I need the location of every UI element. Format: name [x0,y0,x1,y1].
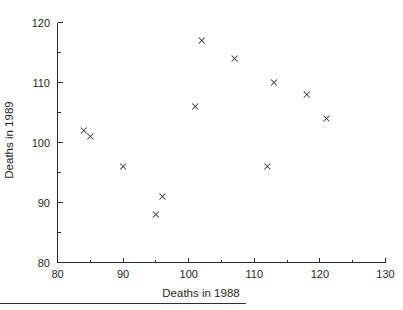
data-point [199,38,205,44]
data-point [120,164,126,170]
x-tick-label: 100 [180,269,198,280]
y-axis-title: Deaths in 1989 [4,101,16,178]
plot-canvas [0,0,403,310]
data-point [87,134,93,140]
y-tick-label: 100 [22,137,50,148]
x-tick-label: 130 [376,269,394,280]
data-point [304,92,310,98]
y-tick-label: 80 [22,257,50,268]
data-point [81,128,87,134]
x-tick-label: 90 [117,269,129,280]
y-tick-label: 110 [22,77,50,88]
data-markers [81,38,330,218]
data-point [192,104,198,110]
data-point [159,194,165,200]
axis-ticks [58,23,386,263]
x-tick-label: 120 [311,269,329,280]
bottom-divider [0,303,246,304]
y-tick-label: 120 [22,17,50,28]
data-point [264,164,270,170]
scatter-plot-figure: 80901001101201308090100110120 Deaths in … [0,0,403,310]
x-tick-label: 80 [51,269,63,280]
data-point [232,56,238,62]
x-axis-title: Deaths in 1988 [162,288,239,300]
data-point [323,116,329,122]
y-tick-label: 90 [22,197,50,208]
data-point [153,212,159,218]
axes [58,23,386,263]
data-point [271,80,277,86]
x-tick-label: 110 [246,269,264,280]
